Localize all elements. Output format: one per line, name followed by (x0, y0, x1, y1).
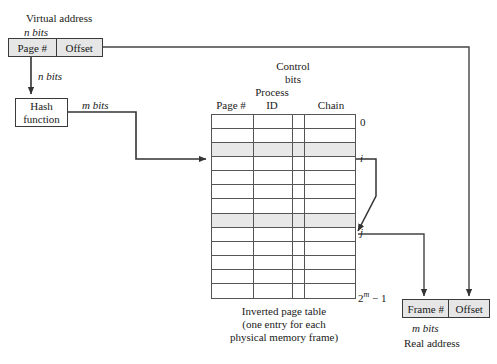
table-row (212, 270, 355, 284)
table-row (212, 284, 355, 298)
row-index-last: 2m − 1 (358, 288, 387, 305)
table-row (212, 256, 355, 270)
real-address-caption: Real address (404, 337, 460, 350)
real-address-frame-field: Frame # (403, 300, 448, 317)
hash-function-line2: function (23, 113, 60, 126)
table-caption-line1: Inverted page table (203, 305, 365, 318)
column-header-chain: Chain (303, 99, 359, 112)
table-row (212, 115, 355, 129)
row-index-last-tail: − 1 (369, 292, 386, 304)
line-hash-to-table (68, 112, 206, 159)
column-header-process-id-line1: Process (242, 86, 302, 99)
row-index-j: j (360, 226, 363, 239)
table-row (212, 143, 355, 157)
hash-input-bits-label: n bits (38, 70, 62, 83)
table-caption-line3: physical memory frame) (203, 331, 365, 344)
hash-function-box: Hash function (15, 98, 68, 127)
inverted-page-table-diagram: Virtual address n bits Page # Offset n b… (0, 0, 497, 364)
real-address-bits-label: m bits (412, 322, 439, 335)
table-row (212, 214, 355, 228)
virtual-address-caption: Virtual address (26, 12, 92, 25)
virtual-address-page-field: Page # (9, 39, 56, 56)
inverted-page-table (211, 114, 356, 299)
column-divider-id-control (292, 115, 293, 298)
column-header-process-id-line2: ID (242, 99, 302, 112)
table-row (212, 157, 355, 171)
real-address-box: Frame # Offset (402, 299, 490, 318)
table-row (212, 242, 355, 256)
line-chain-i-to-j (356, 159, 376, 231)
table-caption-line2: (one entry for each (203, 318, 365, 331)
control-bits-label-line1: Control (263, 60, 323, 73)
row-index-i: i (360, 152, 363, 165)
hash-output-bits-label: m bits (82, 99, 109, 112)
hash-function-line1: Hash (30, 100, 53, 113)
table-row (212, 228, 355, 242)
table-row (212, 185, 355, 199)
column-divider-page-id (253, 115, 254, 298)
table-row (212, 199, 355, 213)
virtual-address-offset-field: Offset (56, 39, 103, 56)
control-bits-label-line2: bits (263, 73, 323, 86)
table-row (212, 129, 355, 143)
line-j-to-frame (358, 234, 424, 296)
row-index-0: 0 (360, 116, 366, 129)
real-address-offset-field: Offset (448, 300, 489, 317)
virtual-address-box: Page # Offset (8, 38, 103, 57)
table-row (212, 171, 355, 185)
column-divider-control-chain (304, 115, 305, 298)
